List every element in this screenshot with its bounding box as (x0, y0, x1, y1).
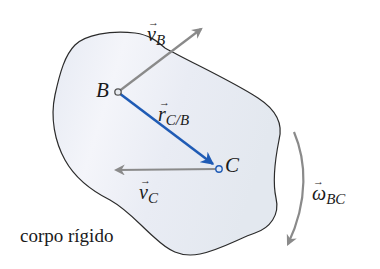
vector-v-c (116, 169, 218, 170)
rigid-body-diagram: →vB B →rC/B C →vC →ωBC corpo rígido (0, 0, 380, 269)
label-point-b: B (96, 80, 109, 101)
rigid-body-outline (53, 32, 280, 255)
label-omega-bc: →ωBC (312, 183, 345, 203)
label-r-c-b: →rC/B (158, 104, 189, 124)
vector-arrow-icon: → (159, 97, 170, 108)
point-c-marker (216, 166, 222, 172)
rigid-body-caption: corpo rígido (20, 226, 113, 245)
angular-velocity-arc (288, 132, 303, 244)
point-b-marker (115, 89, 121, 95)
label-point-c: C (225, 155, 239, 176)
label-v-b: →vB (147, 24, 165, 44)
vector-arrow-icon: → (148, 17, 159, 28)
vector-arrow-icon: → (313, 176, 324, 187)
vector-arrow-icon: → (140, 175, 151, 186)
label-v-c: →vC (139, 182, 158, 202)
